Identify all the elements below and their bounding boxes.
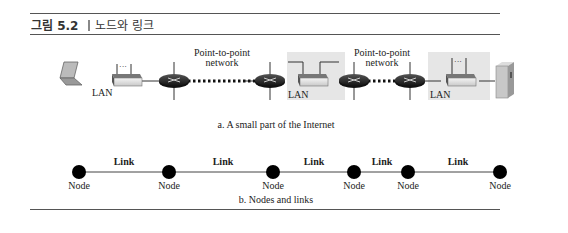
server-icon: [496, 62, 514, 98]
caption-b: b. Nodes and links: [239, 194, 314, 205]
antenna-dots-1: ···: [119, 62, 127, 71]
p2p-label-2b: network: [366, 57, 399, 68]
bottom-rule: [30, 209, 500, 210]
network-diagram: ··· ···: [0, 0, 568, 233]
node-label-2: Node: [158, 180, 180, 191]
router-icon-3: [339, 74, 369, 88]
link-label-3: Link: [304, 156, 325, 167]
node-dot-5: [401, 165, 415, 179]
node-dot-6: [493, 165, 507, 179]
switch-icon-lan-1: [112, 74, 142, 86]
router-icon-4: [395, 74, 425, 88]
node-label-5: Node: [397, 180, 419, 191]
link-label-2: Link: [213, 156, 234, 167]
node-label-4: Node: [343, 180, 365, 191]
node-dot-4: [347, 165, 361, 179]
p2p-label-1b: network: [206, 57, 239, 68]
link-label-5: Link: [448, 156, 469, 167]
lan-label-1: LAN: [92, 87, 113, 98]
node-dot-2: [162, 165, 176, 179]
laptop-icon: [60, 62, 82, 85]
lan-label-2: LAN: [288, 89, 309, 100]
link-label-1: Link: [114, 156, 135, 167]
antenna-dots-3: ···: [454, 57, 462, 66]
lan-label-3: LAN: [430, 89, 451, 100]
node-label-1: Node: [68, 180, 90, 191]
node-label-6: Node: [489, 180, 511, 191]
link-label-4: Link: [372, 156, 393, 167]
node-label-3: Node: [262, 180, 284, 191]
switch-icon-lan-3: [446, 74, 476, 86]
node-dot-1: [72, 165, 86, 179]
switch-icon-lan-2: [298, 74, 328, 86]
router-icon-2: [255, 74, 285, 88]
router-icon-1: [159, 74, 189, 88]
caption-a: a. A small part of the Internet: [218, 119, 335, 130]
node-dot-3: [266, 165, 280, 179]
